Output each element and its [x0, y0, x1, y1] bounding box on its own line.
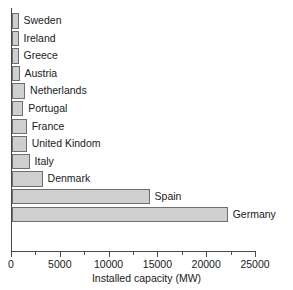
- y-axis-line: [11, 8, 12, 251]
- bar: [12, 189, 150, 205]
- bar-label: Portugal: [28, 101, 67, 117]
- bar-row: Austria: [12, 65, 256, 83]
- bar: [12, 207, 228, 223]
- bar-label: Ireland: [24, 31, 56, 47]
- bar: [12, 83, 25, 99]
- bar-row: Netherlands: [12, 82, 256, 100]
- x-tick-major: [11, 251, 12, 257]
- bar-row: Germany: [12, 206, 256, 224]
- bar: [12, 101, 23, 117]
- x-tick-label: 5000: [48, 258, 71, 270]
- x-tick-label: 25000: [240, 258, 269, 270]
- bar-row: France: [12, 118, 256, 136]
- bar-label: France: [32, 119, 65, 135]
- bar-label: Netherlands: [30, 83, 87, 99]
- x-tick-minor: [84, 251, 85, 255]
- x-tick-major: [206, 251, 207, 257]
- bar: [12, 136, 27, 152]
- bar: [12, 13, 19, 29]
- bar-row: Italy: [12, 153, 256, 171]
- x-tick-label: 10000: [94, 258, 123, 270]
- x-tick-label: 20000: [192, 258, 221, 270]
- x-tick-minor: [35, 251, 36, 255]
- x-axis-title: Installed capacity (MW): [0, 272, 293, 284]
- bar-label: Greece: [24, 48, 58, 64]
- bar-label: United Kindom: [32, 136, 101, 152]
- bar-label: Denmark: [48, 171, 91, 187]
- x-tick-label: 0: [8, 258, 14, 270]
- bars-container: SwedenIrelandGreeceAustriaNetherlandsPor…: [12, 12, 256, 223]
- bar-label: Spain: [155, 189, 182, 205]
- bar-row: Spain: [12, 188, 256, 206]
- bar-row: Portugal: [12, 100, 256, 118]
- bar-label: Germany: [233, 207, 276, 223]
- bar: [12, 66, 20, 82]
- bar-row: Denmark: [12, 170, 256, 188]
- bar-row: United Kindom: [12, 135, 256, 153]
- x-tick-major: [157, 251, 158, 257]
- bar-label: Italy: [35, 154, 54, 170]
- x-tick-minor: [133, 251, 134, 255]
- x-tick-label: 15000: [143, 258, 172, 270]
- bar: [12, 154, 30, 170]
- x-tick-major: [255, 251, 256, 257]
- bar-label: Austria: [25, 66, 58, 82]
- bar: [12, 48, 19, 64]
- x-tick-minor: [231, 251, 232, 255]
- bar: [12, 119, 27, 135]
- x-tick-minor: [182, 251, 183, 255]
- bar: [12, 171, 43, 187]
- bar-row: Greece: [12, 47, 256, 65]
- bar-row: Sweden: [12, 12, 256, 30]
- bar-chart: SwedenIrelandGreeceAustriaNetherlandsPor…: [0, 0, 293, 290]
- x-tick-major: [60, 251, 61, 257]
- bar-row: Ireland: [12, 30, 256, 48]
- bar: [12, 31, 19, 47]
- bar-label: Sweden: [24, 13, 62, 29]
- x-tick-major: [109, 251, 110, 257]
